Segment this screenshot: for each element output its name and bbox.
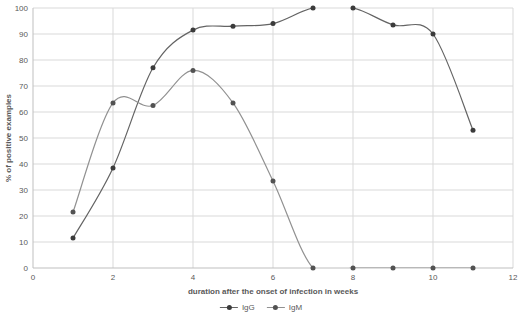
x-tick-label: 8 (351, 273, 356, 282)
legend-item-igm: IgM (267, 303, 302, 312)
igm-marker (191, 68, 196, 73)
igg-marker (111, 165, 116, 170)
igm-marker (471, 266, 476, 271)
x-tick-label: 10 (429, 273, 438, 282)
y-tick-label: 30 (19, 186, 28, 195)
igg-legend-marker-icon (220, 304, 238, 311)
igm-marker (311, 266, 316, 271)
igm-marker (151, 103, 156, 108)
x-tick-label: 6 (271, 273, 276, 282)
igg-marker (391, 22, 396, 27)
y-tick-label: 40 (19, 160, 28, 169)
x-axis-title: duration after the onset of infection in… (188, 287, 358, 296)
y-axis-title: % of positive examples (4, 94, 13, 182)
x-tick-label: 2 (111, 273, 116, 282)
igm-marker (271, 178, 276, 183)
igm-marker (111, 100, 116, 105)
x-tick-label: 4 (191, 273, 196, 282)
igg-marker (351, 6, 356, 11)
igg-marker (191, 28, 196, 33)
x-tick-label: 12 (509, 273, 518, 282)
igg-marker (71, 236, 76, 241)
igm-marker (231, 100, 236, 105)
y-tick-label: 80 (19, 56, 28, 65)
igg-marker (471, 128, 476, 133)
igg-marker (151, 65, 156, 70)
y-tick-label: 70 (19, 82, 28, 91)
y-tick-label: 0 (24, 264, 29, 273)
y-tick-label: 90 (19, 30, 28, 39)
igg-marker (231, 24, 236, 29)
legend-label-igg: IgG (242, 303, 255, 312)
igm-legend-marker-icon (267, 304, 285, 311)
igm-marker (351, 266, 356, 271)
legend-item-igg: IgG (220, 303, 255, 312)
legend-label-igm: IgM (289, 303, 302, 312)
igg-marker (311, 6, 316, 11)
x-tick-label: 0 (31, 273, 36, 282)
igg-marker (431, 32, 436, 37)
line-chart: 0102030405060708090100024681012 % of pos… (0, 0, 523, 324)
igm-marker (71, 210, 76, 215)
igg-marker (271, 21, 276, 26)
legend: IgG IgM (220, 303, 302, 312)
y-tick-label: 100 (15, 4, 29, 13)
y-tick-label: 20 (19, 212, 28, 221)
y-tick-label: 10 (19, 238, 28, 247)
igm-marker (391, 266, 396, 271)
igm-marker (431, 266, 436, 271)
y-tick-label: 50 (19, 134, 28, 143)
y-tick-label: 60 (19, 108, 28, 117)
plot-area: 0102030405060708090100024681012 (0, 0, 523, 324)
